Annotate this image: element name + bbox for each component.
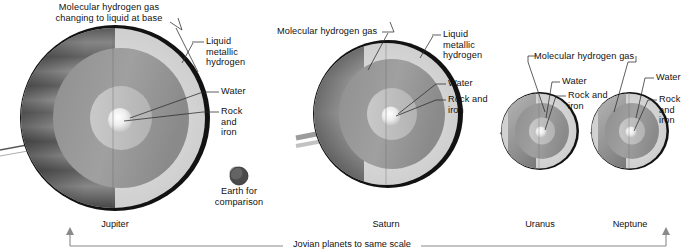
earth-graphic bbox=[230, 167, 249, 186]
uranus-water-label: Water bbox=[562, 76, 587, 87]
uranus-outer-label: Molecular hydrogen gas bbox=[534, 51, 634, 62]
jovian-interiors-diagram: Molecular hydrogen gas changing to liqui… bbox=[0, 0, 686, 252]
planet-name-neptune: Neptune bbox=[598, 219, 662, 229]
jupiter-mantle-label: Liquid metallic hydrogen bbox=[206, 36, 262, 68]
saturn-outer-label: Molecular hydrogen gas bbox=[277, 26, 377, 37]
saturn-mantle-label: Liquid metallic hydrogen bbox=[443, 29, 493, 61]
scale-caption: Jovian planets to same scale bbox=[283, 239, 421, 249]
earth-comparison-label: Earth for comparison bbox=[203, 186, 275, 207]
saturn-water-label: Water bbox=[448, 78, 473, 89]
jupiter-water-label: Water bbox=[221, 86, 246, 97]
jupiter-outer-label: Molecular hydrogen gas changing to liqui… bbox=[44, 2, 174, 23]
jupiter-graphic bbox=[0, 25, 210, 211]
planets-artwork bbox=[0, 0, 686, 252]
neptune-core-label: Rock and iron bbox=[659, 94, 686, 126]
neptune-water-label: Water bbox=[656, 72, 681, 83]
planet-name-jupiter: Jupiter bbox=[80, 219, 150, 229]
saturn-graphic bbox=[296, 40, 463, 188]
saturn-core-label: Rock and iron bbox=[448, 94, 500, 115]
jupiter-core-label: Rock and iron bbox=[221, 106, 261, 138]
planet-name-uranus: Uranus bbox=[508, 219, 572, 229]
planet-name-saturn: Saturn bbox=[354, 219, 418, 229]
uranus-core-label: Rock and iron bbox=[568, 90, 616, 111]
